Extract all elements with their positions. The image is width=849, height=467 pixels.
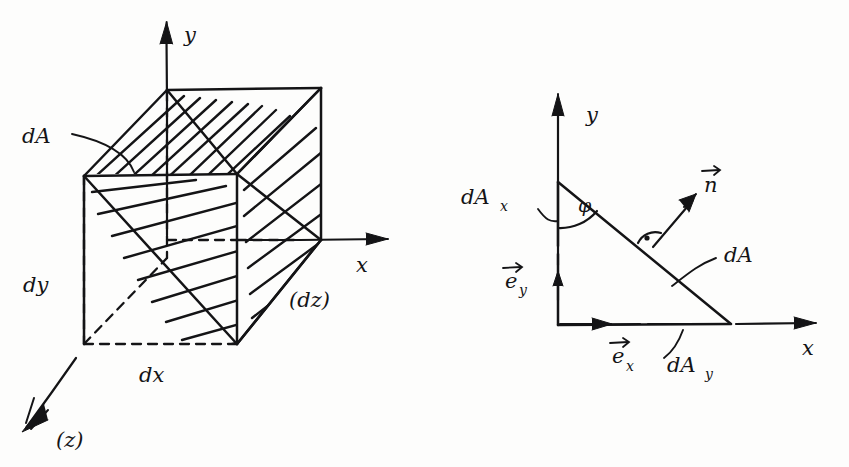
right-label-dAx: dA bbox=[461, 185, 490, 209]
left-z-axis bbox=[22, 358, 76, 432]
right-label-ey-sub: y bbox=[518, 282, 528, 298]
right-label-dAy-sub: y bbox=[704, 366, 714, 382]
right-axis-label-x: x bbox=[802, 336, 814, 360]
unit-vector-ex-arrow bbox=[560, 318, 612, 330]
left-axis-label-z: (z) bbox=[56, 428, 83, 452]
left-label-dx: dx bbox=[139, 363, 164, 387]
left-label-dA: dA bbox=[22, 124, 51, 148]
right-label-ex-group: e x bbox=[610, 338, 634, 374]
right-dAx-leader bbox=[538, 209, 558, 221]
left-axis-label-x: x bbox=[356, 253, 368, 277]
right-label-dAy: dA bbox=[667, 353, 696, 377]
right-label-ex-sub: x bbox=[626, 358, 634, 374]
left-diagram: y x (z) bbox=[22, 22, 388, 452]
left-label-dy: dy bbox=[23, 273, 49, 297]
figure-root: y x (z) bbox=[0, 0, 849, 467]
right-label-dAx-group: dA x bbox=[461, 185, 508, 214]
sketch-canvas: y x (z) bbox=[0, 0, 849, 467]
right-label-phi: φ bbox=[578, 194, 592, 216]
right-label-dAx-sub: x bbox=[500, 198, 508, 214]
right-label-n: n bbox=[704, 173, 718, 197]
right-label-ey-group: e y bbox=[503, 263, 528, 298]
right-axis-label-y: y bbox=[585, 103, 599, 127]
left-axis-label-y: y bbox=[183, 23, 197, 47]
right-diagram: y x φ bbox=[461, 94, 816, 382]
right-label-n-group: n bbox=[702, 166, 720, 197]
right-label-dA: dA bbox=[724, 243, 753, 267]
right-angle-dot-icon bbox=[644, 235, 649, 240]
right-label-dAy-group: dA y bbox=[667, 353, 714, 382]
unit-vector-ey-arrow bbox=[553, 271, 563, 300]
right-dA-leader bbox=[672, 258, 716, 286]
left-label-dz: (dz) bbox=[289, 288, 330, 312]
normal-vector-n bbox=[653, 194, 696, 247]
